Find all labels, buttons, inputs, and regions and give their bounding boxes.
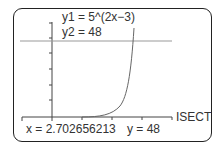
result-y-value: y = 48 xyxy=(127,123,160,135)
y2-equation-label: y2 = 48 xyxy=(62,26,102,38)
isect-mode-label: ISECT xyxy=(176,111,211,123)
y1-equation-label: y1 = 5^(2x−3) xyxy=(62,11,135,23)
result-x-value: x = 2.702656213 xyxy=(26,123,116,135)
x-axis-ticks xyxy=(22,117,172,121)
